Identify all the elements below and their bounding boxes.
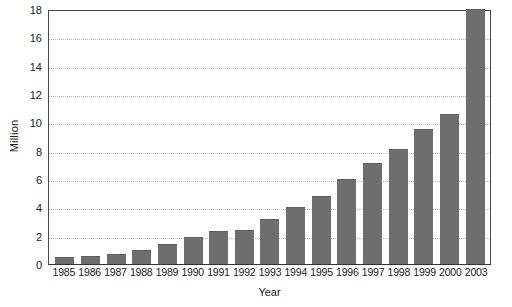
bar: [337, 179, 356, 264]
x-axis-tick-labels: 1985198619871988198919901991199219931994…: [48, 266, 491, 284]
x-tick-label: 1992: [231, 266, 257, 284]
bar-slot: [257, 11, 283, 264]
y-tick-label: 18: [30, 4, 42, 16]
bar-slot: [462, 11, 488, 264]
y-axis-tick-labels: 024681012141618: [20, 10, 42, 265]
x-tick-label: 1993: [257, 266, 283, 284]
bar-slot: [129, 11, 155, 264]
x-tick-label: 1994: [283, 266, 309, 284]
y-tick-label: 14: [30, 61, 42, 73]
x-tick-label: 1998: [386, 266, 412, 284]
bar-chart: Million 024681012141618 1985198619871988…: [0, 0, 512, 307]
bar: [55, 257, 74, 264]
x-tick-label: 1988: [128, 266, 154, 284]
x-tick-label: 1990: [180, 266, 206, 284]
bar-slot: [334, 11, 360, 264]
bar: [235, 230, 254, 264]
x-axis-title: Year: [48, 286, 491, 298]
bar-slot: [231, 11, 257, 264]
bar: [466, 9, 485, 264]
bar: [312, 196, 331, 264]
y-tick-label: 2: [36, 231, 42, 243]
bar-slot: [103, 11, 129, 264]
bar: [107, 254, 126, 264]
bar-slot: [308, 11, 334, 264]
x-tick-label: 2003: [463, 266, 489, 284]
bar-slot: [283, 11, 309, 264]
y-tick-label: 10: [30, 117, 42, 129]
y-axis-title-label: Million: [8, 120, 20, 153]
bar: [260, 219, 279, 264]
bar-slot: [180, 11, 206, 264]
bar: [363, 163, 382, 264]
bar-slot: [385, 11, 411, 264]
x-tick-label: 1997: [360, 266, 386, 284]
y-tick-label: 4: [36, 202, 42, 214]
x-axis-title-label: Year: [258, 286, 280, 298]
bar: [389, 149, 408, 264]
x-tick-label: 1986: [77, 266, 103, 284]
x-tick-label: 1999: [412, 266, 438, 284]
bar: [132, 250, 151, 264]
y-tick-label: 8: [36, 146, 42, 158]
bar: [286, 207, 305, 264]
bar-slot: [437, 11, 463, 264]
bar-slot: [155, 11, 181, 264]
bar: [440, 114, 459, 264]
y-tick-label: 16: [30, 32, 42, 44]
bar-slot: [360, 11, 386, 264]
x-tick-label: 1989: [154, 266, 180, 284]
x-tick-label: 1991: [206, 266, 232, 284]
bar: [158, 244, 177, 264]
y-tick-label: 6: [36, 174, 42, 186]
bar-slot: [411, 11, 437, 264]
bar-slot: [206, 11, 232, 264]
bar: [209, 231, 228, 264]
bar: [414, 129, 433, 264]
x-tick-label: 1985: [51, 266, 77, 284]
y-tick-label: 0: [36, 259, 42, 271]
bar-slot: [78, 11, 104, 264]
x-tick-label: 2000: [437, 266, 463, 284]
bar-slot: [52, 11, 78, 264]
bar-series: [49, 11, 490, 264]
y-tick-label: 12: [30, 89, 42, 101]
x-tick-label: 1996: [334, 266, 360, 284]
bar: [81, 256, 100, 265]
bar: [184, 237, 203, 264]
x-tick-label: 1995: [309, 266, 335, 284]
x-tick-label: 1987: [103, 266, 129, 284]
plot-area: [48, 10, 491, 265]
